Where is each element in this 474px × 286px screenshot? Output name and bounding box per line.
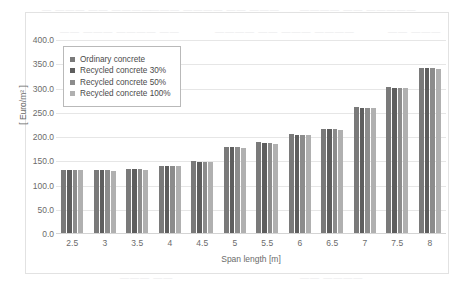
x-axis-tick: 6.5	[316, 238, 349, 248]
bar	[224, 147, 229, 233]
bar	[327, 129, 332, 233]
bar	[143, 170, 148, 233]
bar	[371, 108, 376, 233]
x-axis-label: Span length [m]	[56, 254, 446, 264]
bar	[333, 129, 338, 233]
x-axis-tick: 7.5	[381, 238, 414, 248]
bar	[365, 108, 370, 233]
bar-group	[381, 40, 414, 233]
bar	[230, 147, 235, 233]
bar	[338, 130, 343, 233]
bar	[436, 69, 441, 233]
legend-item: Recycled concrete 100%	[70, 89, 171, 98]
bar	[398, 88, 403, 234]
bar	[403, 88, 408, 233]
legend-label: Recycled concrete 30%	[80, 66, 166, 75]
y-axis-tick-labels: 0.050.0100.0150.0200.0250.0300.0350.0400…	[22, 40, 54, 234]
bar	[386, 87, 391, 233]
bar	[191, 161, 196, 233]
legend-item: Recycled concrete 50%	[70, 78, 171, 87]
legend-label: Recycled concrete 100%	[80, 89, 171, 98]
y-axis-tick: 250.0	[22, 108, 54, 118]
x-axis-tick: 4.5	[186, 238, 219, 248]
bar	[392, 88, 397, 234]
x-axis-tick: 3	[89, 238, 122, 248]
bar-group	[414, 40, 447, 233]
bar	[300, 135, 305, 233]
bar	[235, 147, 240, 233]
legend-swatch-icon	[70, 80, 75, 85]
bar	[321, 129, 326, 233]
bar	[67, 170, 72, 233]
x-axis-tick: 5.5	[251, 238, 284, 248]
legend-label: Ordinary concrete	[80, 55, 145, 64]
x-axis-tick: 3.5	[121, 238, 154, 248]
bar	[256, 142, 261, 233]
y-axis-tick: 350.0	[22, 59, 54, 69]
bar	[170, 166, 175, 233]
bar-group	[219, 40, 252, 233]
x-axis-tick: 2.5	[56, 238, 89, 248]
bar	[138, 169, 143, 233]
x-axis-tick: 8	[414, 238, 447, 248]
bar	[78, 170, 83, 233]
y-axis-tick: 400.0	[22, 35, 54, 45]
bar	[425, 68, 430, 233]
bar	[105, 170, 110, 233]
bar	[94, 170, 99, 233]
legend-item: Recycled concrete 30%	[70, 66, 171, 75]
bar	[354, 107, 359, 233]
y-axis-tick: 200.0	[22, 132, 54, 142]
bar	[203, 162, 208, 233]
bar	[176, 166, 181, 233]
legend-swatch-icon	[70, 57, 75, 62]
x-axis-tick: 5	[219, 238, 252, 248]
legend-item: Ordinary concrete	[70, 55, 171, 64]
legend-swatch-icon	[70, 68, 75, 73]
bar	[430, 68, 435, 233]
y-axis-tick: 100.0	[22, 181, 54, 191]
legend-swatch-icon	[70, 91, 75, 96]
bar	[73, 170, 78, 233]
bar	[419, 68, 424, 233]
bar	[268, 143, 273, 233]
x-axis-tick: 6	[284, 238, 317, 248]
x-axis-tick: 4	[154, 238, 187, 248]
legend-label: Recycled concrete 50%	[80, 78, 166, 87]
bar	[100, 170, 105, 233]
chart-plot-wrapper: [ Euro/m² ] 0.050.0100.0150.0200.0250.03…	[0, 0, 474, 286]
bar	[273, 144, 278, 233]
bar	[360, 108, 365, 233]
y-axis-tick: 300.0	[22, 84, 54, 94]
bar	[111, 171, 116, 233]
y-axis-tick: 0.0	[22, 229, 54, 239]
y-axis-tick: 150.0	[22, 156, 54, 166]
bar-group	[251, 40, 284, 233]
bar	[306, 135, 311, 233]
bar-group	[349, 40, 382, 233]
chart-legend: Ordinary concreteRecycled concrete 30%Re…	[63, 46, 181, 107]
x-axis-tick-labels: 2.533.544.555.566.577.58	[56, 238, 446, 248]
bar	[61, 170, 66, 233]
bar	[241, 148, 246, 233]
bar	[126, 169, 131, 233]
x-axis-tick: 7	[349, 238, 382, 248]
bar	[295, 135, 300, 233]
bar	[208, 162, 213, 233]
bar-group	[284, 40, 317, 233]
bar	[197, 162, 202, 233]
bar-group	[316, 40, 349, 233]
bar	[132, 169, 137, 233]
bar	[262, 143, 267, 233]
bar	[159, 166, 164, 233]
y-axis-tick: 50.0	[22, 205, 54, 215]
bar	[165, 166, 170, 233]
bar-group	[186, 40, 219, 233]
bar	[289, 134, 294, 233]
